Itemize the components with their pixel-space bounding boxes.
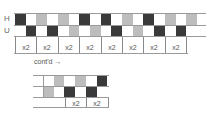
u-row-cell: [90, 26, 101, 36]
cont-u-row-cell: [43, 87, 54, 97]
u-row-cell: [111, 26, 122, 36]
repeat-bracket-tick: [122, 37, 123, 53]
u-row-cell: [26, 26, 36, 36]
repeat-bracket-tick: [58, 37, 59, 53]
u-row-cell: [186, 26, 197, 36]
h-row-cell: [122, 14, 133, 25]
row-label-h: H: [4, 15, 10, 23]
u-row-cell: [15, 26, 26, 36]
u-row-cell: [47, 26, 58, 36]
repeat-label: x2: [17, 44, 35, 51]
repeat-label: x2: [38, 44, 56, 51]
cont-u-row-cell: [86, 87, 97, 97]
cont-h-row-cell: [54, 76, 64, 86]
h-row-cell: [133, 14, 143, 25]
cont-h-row-cell: [75, 76, 86, 86]
repeat-baseline: [14, 53, 188, 54]
h-row-cell: [15, 14, 26, 25]
cont-h-row-cell: [43, 76, 54, 86]
repeat-bracket-tick: [15, 37, 16, 53]
u-row-cell: [176, 26, 186, 36]
cont-grid-line-top: [33, 75, 109, 76]
grid-line-top: [14, 13, 206, 14]
u-row-cell: [154, 26, 165, 36]
repeat-bracket-tick: [36, 37, 37, 53]
contd-text: cont'd: [34, 58, 52, 65]
u-row-cell: [58, 26, 69, 36]
cont-h-row-cell: [86, 76, 97, 86]
u-row-cell: [143, 26, 154, 36]
repeat-label: x2: [67, 100, 85, 107]
h-row-cell: [143, 14, 154, 25]
repeat-bracket-tick: [186, 37, 187, 53]
cont-u-row-cell: [54, 87, 64, 97]
h-row-cell: [111, 14, 122, 25]
row-label-u: U: [4, 27, 10, 35]
cont-h-row-cell: [64, 76, 75, 86]
u-row-cell: [122, 26, 133, 36]
h-row-cell: [165, 14, 176, 25]
repeat-bracket-tick: [101, 37, 102, 53]
u-row-cell: [101, 26, 111, 36]
cont-grid-line-bottom: [33, 97, 109, 98]
contd-label: cont'd →: [34, 58, 61, 65]
u-row-cell: [69, 26, 79, 36]
h-row-cell: [79, 14, 90, 25]
h-row-cell: [26, 14, 36, 25]
h-row-cell: [36, 14, 47, 25]
u-row-cell: [79, 26, 90, 36]
grid-line-middle: [14, 25, 206, 26]
repeat-bracket-tick: [143, 37, 144, 53]
cont-u-row-cell: [75, 87, 86, 97]
repeat-label: x2: [145, 44, 163, 51]
repeat-label: x2: [124, 44, 142, 51]
cont-h-row-cell: [97, 76, 107, 86]
cont-grid-line-middle: [33, 86, 109, 87]
cont-u-row-cell: [64, 87, 75, 97]
grid-line-bottom: [14, 36, 206, 37]
h-row-cell: [47, 14, 58, 25]
u-row-cell: [165, 26, 176, 36]
u-row-cell: [36, 26, 47, 36]
repeat-label: x2: [60, 44, 78, 51]
h-row-cell: [90, 14, 101, 25]
h-row-cell: [176, 14, 186, 25]
cont-repeat-baseline: [33, 107, 109, 108]
h-row-cell: [154, 14, 165, 25]
arrow-right-icon: →: [54, 58, 61, 65]
u-row-cell: [133, 26, 143, 36]
repeat-label: x2: [88, 100, 106, 107]
h-row-cell: [101, 14, 111, 25]
repeat-label: x2: [103, 44, 121, 51]
cont-u-row-cell: [97, 87, 107, 97]
repeat-bracket-tick: [165, 37, 166, 53]
repeat-label: x2: [81, 44, 99, 51]
h-row-cell: [58, 14, 69, 25]
repeat-bracket-tick: [79, 37, 80, 53]
repeat-label: x2: [167, 44, 185, 51]
h-row-cell: [186, 14, 197, 25]
h-row-cell: [69, 14, 79, 25]
